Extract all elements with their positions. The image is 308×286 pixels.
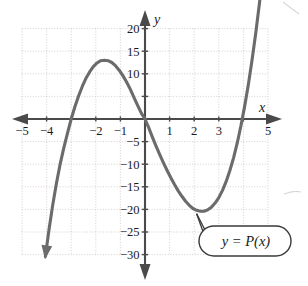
callout-label: y = P(x) <box>220 233 271 250</box>
x-tick-label: 3 <box>216 124 222 138</box>
x-axis-label: x <box>258 100 266 115</box>
x-tick-label: −5 <box>15 124 28 138</box>
chart-svg: −5−4−2−11235201510−5−10−15−20−25−30xyy =… <box>0 0 308 286</box>
x-tick-label: −4 <box>40 124 54 138</box>
y-tick-label: −20 <box>120 203 140 217</box>
y-tick-label: −15 <box>120 180 140 194</box>
x-tick-label: 5 <box>265 124 271 138</box>
x-tick-label: −2 <box>89 124 102 138</box>
x-tick-label: 1 <box>166 124 172 138</box>
y-tick-label: 20 <box>127 22 140 36</box>
x-tick-label: 2 <box>191 124 197 138</box>
y-tick-label: −10 <box>120 158 140 172</box>
y-tick-label: 10 <box>127 67 140 81</box>
y-tick-label: −5 <box>126 135 139 149</box>
y-axis-label: y <box>152 12 161 27</box>
y-tick-label: −30 <box>120 248 140 262</box>
x-tick-label: −1 <box>114 124 127 138</box>
y-tick-label: −25 <box>120 225 140 239</box>
graph-figure: −5−4−2−11235201510−5−10−15−20−25−30xyy =… <box>0 0 308 286</box>
y-tick-label: 15 <box>127 45 140 59</box>
